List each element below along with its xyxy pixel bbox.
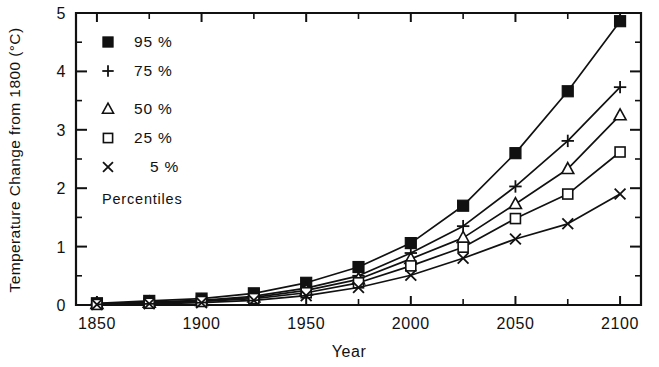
x-tick-label: 1850 bbox=[78, 315, 116, 332]
legend-label: 75 % bbox=[134, 62, 173, 79]
data-point-filled-square bbox=[510, 148, 521, 159]
y-axis-tick-labels: 012345 bbox=[57, 5, 67, 314]
y-tick-label: 2 bbox=[57, 180, 67, 197]
data-point-cross bbox=[615, 189, 626, 200]
data-point-open-square bbox=[406, 261, 416, 271]
legend-item-4: 5 % bbox=[103, 158, 179, 175]
y-tick-label: 1 bbox=[57, 239, 67, 256]
data-point-cross bbox=[562, 218, 573, 229]
legend-item-2: 50 % bbox=[102, 100, 172, 117]
temperature-projection-chart: 185019001950200020502100 012345 95 %75 %… bbox=[0, 0, 659, 367]
data-point-open-square bbox=[458, 242, 468, 252]
x-tick-label: 1900 bbox=[183, 315, 221, 332]
data-point-cross bbox=[510, 234, 521, 245]
data-point-triangle bbox=[614, 109, 626, 120]
x-tick-label: 2100 bbox=[601, 315, 639, 332]
data-point-filled-square bbox=[458, 200, 469, 211]
legend-item-0: 95 % bbox=[103, 33, 173, 50]
data-point-filled-square bbox=[103, 37, 113, 47]
legend-item-1: 75 % bbox=[102, 62, 172, 79]
data-point-open-square bbox=[103, 133, 112, 142]
y-axis-title: Temperature Change from 1800 (°C) bbox=[6, 28, 23, 293]
x-axis-tick-labels: 185019001950200020502100 bbox=[78, 315, 639, 332]
data-point-filled-square bbox=[615, 16, 626, 27]
data-point-triangle bbox=[509, 198, 521, 209]
data-point-open-square bbox=[510, 214, 520, 224]
legend-label: 5 % bbox=[150, 158, 179, 175]
legend-caption: Percentiles bbox=[102, 191, 183, 207]
x-tick-label: 2050 bbox=[496, 315, 534, 332]
chart-page: 185019001950200020502100 012345 95 %75 %… bbox=[0, 0, 659, 367]
x-tick-label: 1950 bbox=[287, 315, 325, 332]
legend-item-3: 25 % bbox=[103, 129, 172, 146]
y-tick-label: 4 bbox=[57, 63, 67, 80]
y-tick-label: 5 bbox=[57, 5, 67, 22]
legend-label: 95 % bbox=[134, 33, 173, 50]
legend-label: 25 % bbox=[134, 129, 173, 146]
legend-label: 50 % bbox=[134, 100, 173, 117]
data-point-triangle bbox=[102, 103, 113, 113]
y-tick-label: 3 bbox=[57, 122, 67, 139]
x-axis-title: Year bbox=[332, 343, 367, 360]
data-point-triangle bbox=[457, 231, 469, 242]
data-point-cross bbox=[458, 253, 469, 264]
data-point-open-square bbox=[563, 189, 573, 199]
data-point-filled-square bbox=[562, 86, 573, 97]
y-tick-label: 0 bbox=[57, 297, 67, 314]
data-point-open-square bbox=[615, 147, 625, 157]
x-tick-label: 2000 bbox=[392, 315, 430, 332]
data-point-cross bbox=[103, 162, 113, 172]
data-point-plus bbox=[102, 65, 113, 76]
chart-legend: 95 %75 %50 %25 %5 %Percentiles bbox=[102, 33, 183, 207]
data-point-open-square bbox=[249, 294, 259, 304]
